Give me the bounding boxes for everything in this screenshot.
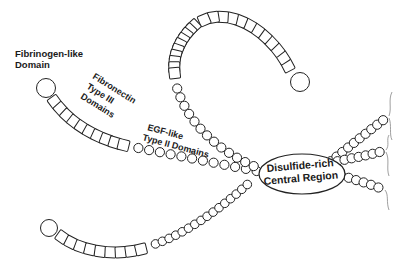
egf-bead — [145, 146, 154, 155]
egf-bead — [374, 183, 383, 192]
fibrinogen-label-line2: Domain — [15, 59, 50, 70]
truncation-line — [385, 190, 389, 210]
egf-bead — [209, 158, 218, 167]
truncation-line — [389, 118, 392, 140]
fibrinogen-label: Fibrinogen-like Domain — [15, 48, 83, 70]
egf-bead — [231, 162, 240, 171]
egf-bead — [176, 93, 185, 102]
egf-bead — [379, 116, 388, 125]
egf-bead — [232, 153, 241, 162]
truncation-line — [386, 135, 389, 150]
fn3-square — [117, 138, 130, 151]
central-region: Disulfide-rich Central Region — [259, 154, 345, 194]
egf-bead — [243, 180, 252, 189]
egf-bead — [241, 158, 250, 167]
fn3-square — [134, 243, 147, 256]
truncation-line — [386, 152, 389, 176]
domain-chains — [37, 11, 393, 258]
fibrinogen-label-line1: Fibrinogen-like — [15, 48, 83, 59]
egf-bead — [375, 147, 384, 156]
fibrinogen-like-globe — [37, 79, 56, 98]
fibrinogen-like-globe — [41, 220, 58, 237]
fn3-square — [169, 67, 181, 79]
tenascin-domain-diagram: Disulfide-rich Central Region Fibrinogen… — [0, 0, 400, 273]
egf-bead — [220, 160, 229, 169]
egf-bead — [173, 84, 182, 93]
egf-bead — [155, 148, 164, 157]
fibrinogen-like-globe — [291, 73, 310, 92]
egf-bead — [134, 143, 143, 152]
fibronectin-label: Fibronectin Type III Domains — [79, 71, 138, 120]
egf-bead — [166, 150, 175, 159]
truncation-line — [389, 92, 392, 116]
egf-bead — [249, 162, 258, 171]
